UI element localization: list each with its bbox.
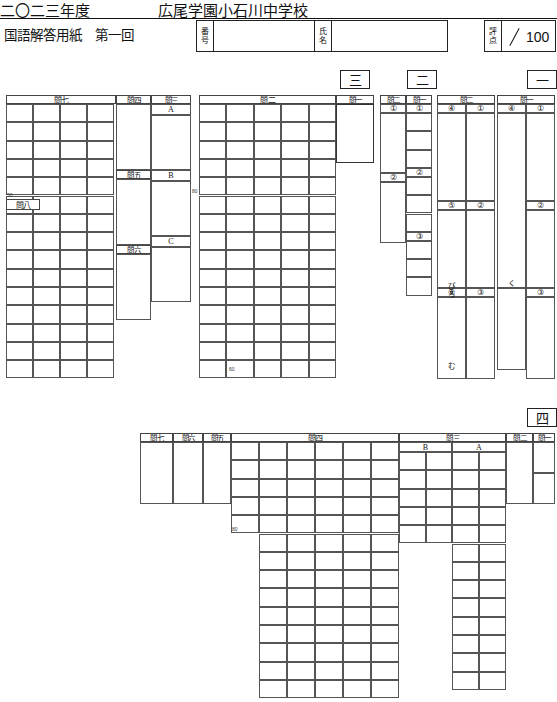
section-one-q2-cell[interactable] (226, 342, 253, 360)
section-two-q2-answer-1[interactable] (380, 113, 406, 173)
section-four-q3-cell[interactable] (426, 489, 453, 507)
section-one-q2-cell[interactable] (309, 287, 336, 305)
section-one-q2-cell[interactable] (199, 214, 226, 232)
section-one-q7-cell[interactable] (60, 360, 87, 378)
section-four-q4-cell[interactable] (343, 442, 371, 460)
section-four-q4-cell[interactable] (371, 570, 399, 588)
section-two-q1-cell[interactable] (406, 241, 432, 259)
section-one-q7-cell[interactable] (87, 104, 114, 122)
section-one-q7-cell[interactable] (60, 122, 87, 140)
section-one-q2-cell[interactable] (309, 141, 336, 159)
section-one-q7-cell[interactable] (33, 287, 60, 305)
section-one-q2-cell[interactable] (309, 342, 336, 360)
section-two-q1-cell[interactable] (406, 259, 432, 277)
section-four-q4-cell[interactable] (287, 442, 315, 460)
section-three-col3-answer-2[interactable] (497, 288, 526, 370)
section-one-q2-cell[interactable] (281, 214, 308, 232)
section-one-q7-cell[interactable] (6, 269, 33, 287)
section-one-q2-cell[interactable] (254, 250, 281, 268)
section-one-q2-cell[interactable] (281, 342, 308, 360)
section-one-q2-cell[interactable] (281, 141, 308, 159)
section-one-q2-cell[interactable] (226, 159, 253, 177)
section-one-q7-cell[interactable] (87, 342, 114, 360)
section-four-q3-cell[interactable] (452, 617, 479, 635)
section-one-q2-cell[interactable] (199, 360, 226, 378)
section-one-q2-cell[interactable] (254, 360, 281, 378)
section-four-q4-cell[interactable] (259, 497, 287, 515)
section-one-q2-cell[interactable] (309, 177, 336, 195)
section-two-q2-answer-2[interactable] (380, 182, 406, 242)
section-four-q3-cell[interactable] (452, 562, 479, 580)
section-four-q4-cell[interactable] (231, 442, 259, 460)
section-one-q2-cell[interactable] (254, 177, 281, 195)
section-four-q4-cell[interactable] (315, 460, 343, 478)
section-one-q7-cell[interactable] (87, 360, 114, 378)
section-two-q1-cell[interactable] (406, 214, 432, 232)
section-one-q2-cell[interactable] (281, 250, 308, 268)
section-one-q7-cell[interactable] (87, 159, 114, 177)
section-one-q2-cell[interactable] (281, 159, 308, 177)
section-one-q2-cell[interactable] (199, 104, 226, 122)
section-four-q3-cell[interactable] (479, 562, 506, 580)
section-four-q1-answer-2[interactable] (533, 473, 555, 504)
section-four-q4-cell[interactable] (315, 680, 343, 698)
section-one-q2-cell[interactable] (199, 342, 226, 360)
section-one-q3-answer-c[interactable] (151, 247, 191, 302)
section-one-q2-cell[interactable] (309, 214, 336, 232)
section-four-q4-cell[interactable] (343, 625, 371, 643)
section-four-q4-cell[interactable] (315, 479, 343, 497)
section-one-q7-cell[interactable] (87, 196, 114, 214)
section-one-q2-cell[interactable] (199, 287, 226, 305)
section-four-q3-cell[interactable] (426, 470, 453, 488)
section-three-col2-answer-1[interactable] (466, 113, 495, 201)
section-four-q4-cell[interactable] (343, 515, 371, 533)
section-four-q3-cell[interactable] (399, 525, 426, 543)
section-two-q1-cell[interactable] (406, 131, 432, 149)
section-one-q2-cell[interactable] (226, 177, 253, 195)
section-one-q7-cell[interactable] (6, 122, 33, 140)
section-one-q7-cell[interactable] (60, 196, 87, 214)
section-one-q7-cell[interactable] (33, 177, 60, 195)
section-one-q7-cell[interactable] (33, 250, 60, 268)
section-four-q4-cell[interactable] (371, 515, 399, 533)
section-four-q4-cell[interactable] (371, 497, 399, 515)
section-one-q2-cell[interactable] (199, 177, 226, 195)
section-one-q2-cell[interactable] (254, 159, 281, 177)
section-four-q4-cell[interactable] (371, 552, 399, 570)
section-four-q4-cell[interactable] (259, 552, 287, 570)
section-four-q4-cell[interactable] (343, 534, 371, 552)
section-four-q4-cell[interactable] (287, 497, 315, 515)
section-one-q6-answer[interactable] (116, 254, 151, 320)
section-four-q4-cell[interactable] (343, 680, 371, 698)
section-four-q4-cell[interactable] (287, 534, 315, 552)
section-four-q4-cell[interactable] (343, 607, 371, 625)
section-one-q2-cell[interactable] (254, 214, 281, 232)
section-four-q3-cell[interactable] (452, 635, 479, 653)
section-four-q5-answer[interactable] (203, 442, 231, 504)
section-four-q4-cell[interactable] (371, 607, 399, 625)
section-one-q7-cell[interactable] (6, 360, 33, 378)
section-one-q7-cell[interactable] (60, 177, 87, 195)
section-four-q3-cell[interactable] (452, 470, 479, 488)
section-four-q4-cell[interactable] (371, 479, 399, 497)
section-one-q7-cell[interactable] (60, 269, 87, 287)
section-four-q4-cell[interactable] (259, 460, 287, 478)
section-four-q4-cell[interactable] (259, 588, 287, 606)
section-four-q4-cell[interactable] (259, 625, 287, 643)
section-one-q7-cell[interactable] (87, 141, 114, 159)
section-one-q2-cell[interactable] (199, 122, 226, 140)
section-one-q7-cell[interactable] (87, 305, 114, 323)
section-one-q2-cell[interactable] (309, 122, 336, 140)
section-three-col4-answer-1[interactable] (526, 113, 555, 201)
section-one-q2-cell[interactable] (309, 196, 336, 214)
section-one-q7-cell[interactable] (33, 305, 60, 323)
section-one-q4-answer[interactable] (116, 104, 151, 170)
section-one-q7-cell[interactable] (33, 159, 60, 177)
section-one-q7-cell[interactable] (6, 250, 33, 268)
section-four-q4-cell[interactable] (287, 570, 315, 588)
section-four-q4-cell[interactable] (371, 662, 399, 680)
section-one-q2-cell[interactable] (254, 287, 281, 305)
section-four-q3-cell[interactable] (452, 598, 479, 616)
section-one-q7-cell[interactable] (6, 159, 33, 177)
section-four-q3-cell[interactable] (452, 653, 479, 671)
